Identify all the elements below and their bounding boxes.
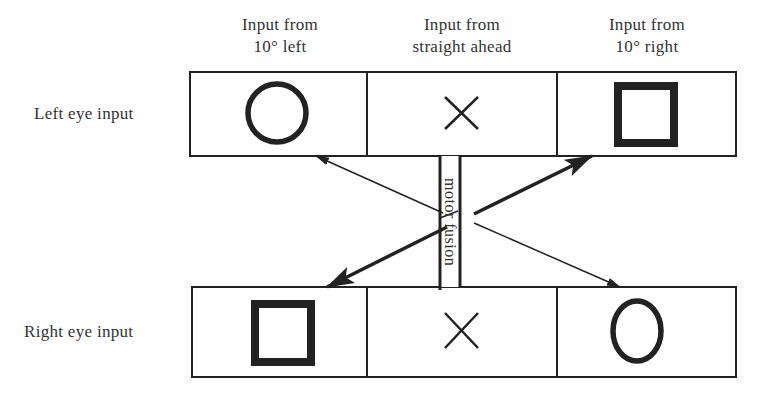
arrow-to-right-eye-10-left [327, 227, 447, 287]
square-icon [618, 86, 674, 143]
diagram-canvas [0, 0, 770, 401]
arrow-to-left-eye-10-left [316, 156, 443, 213]
x-icon [445, 313, 478, 348]
motor-fusion-label: motor fusion [440, 158, 460, 286]
arrow-to-right-eye-10-right [474, 223, 620, 287]
circle-icon [613, 301, 661, 361]
circle-icon [248, 84, 306, 142]
square-icon [255, 304, 311, 362]
x-icon [445, 97, 478, 129]
arrow-to-left-eye-10-right [474, 156, 592, 214]
